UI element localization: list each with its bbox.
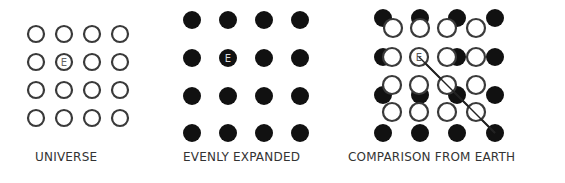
earth-label: E xyxy=(225,53,231,64)
label-evenly-expanded: EVENLY EXPANDED xyxy=(183,150,300,164)
universe-grid xyxy=(28,26,128,126)
comparison-open xyxy=(383,19,485,121)
label-universe: UNIVERSE xyxy=(35,150,97,164)
earth-label: E xyxy=(416,52,422,63)
expanded-grid xyxy=(183,11,309,142)
label-comparison-from-earth: COMPARISON FROM EARTH xyxy=(348,150,515,164)
earth-label: E xyxy=(61,57,67,68)
expansion-arrow-overlay xyxy=(419,57,495,133)
